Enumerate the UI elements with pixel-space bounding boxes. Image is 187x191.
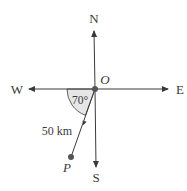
south-axis (95, 89, 96, 167)
origin-point (92, 86, 98, 92)
west-label: W (11, 82, 24, 97)
angle-label: 70° (72, 94, 89, 106)
bearing-diagram: N S W E O P 70° 50 km (0, 0, 187, 191)
north-axis (94, 31, 95, 89)
distance-label: 50 km (42, 124, 73, 138)
point-p-label: P (62, 160, 71, 175)
origin-label: O (100, 72, 110, 87)
op-direction-arrow-icon (83, 121, 87, 126)
east-label: E (176, 82, 184, 97)
south-label: S (92, 170, 99, 185)
north-label: N (89, 11, 99, 26)
